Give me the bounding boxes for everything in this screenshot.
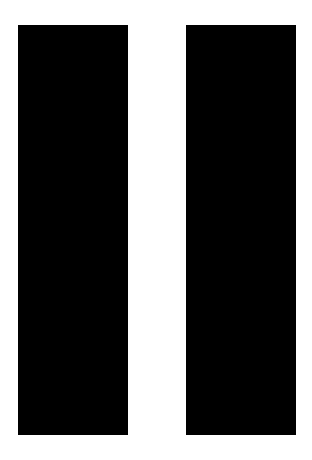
pause-icon (0, 0, 312, 460)
pause-bar-right (186, 25, 296, 435)
pause-bar-left (18, 25, 128, 435)
